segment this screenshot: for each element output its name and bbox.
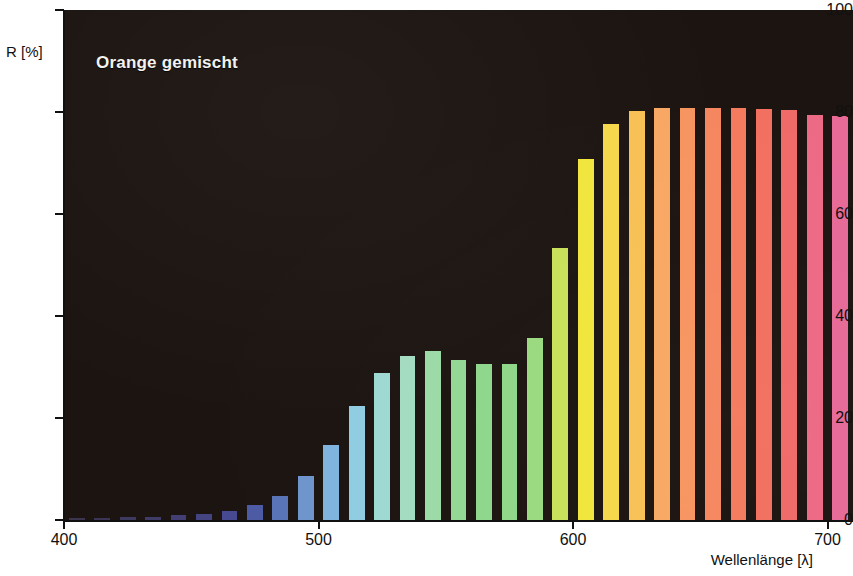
x-axis-tick-label: 700: [798, 531, 853, 549]
bar: [629, 111, 645, 520]
x-axis-tick-label: 600: [543, 531, 603, 549]
x-axis-title: Wellenlänge [λ]: [0, 551, 853, 568]
bar: [349, 406, 365, 520]
y-axis-tick: [55, 213, 64, 215]
y-axis-tick: [55, 417, 64, 419]
x-axis-tick-label: 400: [34, 531, 94, 549]
y-axis-tick-label: 100: [805, 2, 853, 18]
x-axis-tick-label: 500: [289, 531, 349, 549]
y-axis-tick-label: 40: [805, 308, 853, 324]
y-axis-tick: [55, 111, 64, 113]
x-axis-tick: [63, 520, 65, 529]
bar: [476, 364, 492, 520]
x-axis-tick: [572, 520, 574, 529]
y-axis-tick-label: 0: [805, 512, 853, 528]
bar: [603, 124, 619, 520]
bar: [374, 373, 390, 520]
x-axis-line: [63, 520, 853, 522]
bar: [323, 445, 339, 520]
bar: [552, 248, 568, 520]
x-axis-tick: [827, 520, 829, 529]
bar: [502, 364, 518, 520]
y-axis-tick-label: 80: [805, 104, 853, 120]
y-axis-title: R [%]: [6, 44, 43, 60]
y-axis-tick-label: 60: [805, 206, 853, 222]
bar: [705, 108, 721, 520]
bar: [451, 360, 467, 520]
y-axis-tick: [55, 315, 64, 317]
reflectance-spectrum-figure: Orange gemischt 020406080100 40050060070…: [0, 0, 853, 576]
bar: [578, 159, 594, 520]
bar: [272, 496, 288, 520]
bar: [222, 511, 238, 520]
bar: [298, 476, 314, 520]
bar: [527, 338, 543, 520]
bar: [425, 351, 441, 520]
bar: [400, 356, 416, 520]
bar: [731, 108, 747, 520]
bar: [654, 108, 670, 520]
y-axis-tick: [55, 9, 64, 11]
y-axis-line: [63, 10, 65, 521]
chart-title: Orange gemischt: [96, 53, 238, 73]
bar: [781, 110, 797, 520]
bar: [756, 109, 772, 520]
bar-series: [64, 10, 853, 520]
bar: [247, 505, 263, 520]
x-axis-tick: [318, 520, 320, 529]
y-axis-tick-label: 20: [805, 410, 853, 426]
plot-area: [64, 10, 853, 520]
bar: [680, 108, 696, 520]
